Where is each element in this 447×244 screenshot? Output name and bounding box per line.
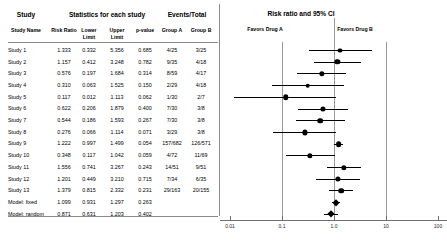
- cell-study: Study 9: [8, 141, 26, 146]
- cell-lower: 0.997: [82, 141, 96, 146]
- cell-ga: 2/29: [167, 83, 178, 88]
- column-header-upper: Upper: [110, 28, 125, 33]
- cell-lower: 0.186: [82, 118, 96, 123]
- cell-study: Study 5: [8, 95, 26, 100]
- effect-marker: [321, 106, 326, 111]
- effect-marker: [341, 165, 346, 170]
- cell-ga: 4/25: [167, 48, 178, 53]
- cell-rr: 0.348: [57, 153, 71, 158]
- cell-study: Study 1: [8, 48, 26, 53]
- column-header-rr: Risk Ratio: [51, 28, 76, 33]
- gridline-0.1: [282, 42, 283, 220]
- cell-p: 0.059: [138, 153, 152, 158]
- cell-gb: 3/8: [197, 106, 205, 111]
- cell-upper: 3.248: [110, 60, 124, 65]
- x-tick-1: [282, 216, 283, 220]
- cell-gb: 4/18: [196, 60, 207, 65]
- cell-rr: 1.201: [57, 177, 71, 182]
- cell-ga: 7/30: [167, 118, 178, 123]
- cell-gb: 4/17: [196, 71, 207, 76]
- cell-gb: 3/25: [196, 48, 207, 53]
- cell-rr: 1.556: [57, 165, 71, 170]
- x-tick-label-1: 0.1: [279, 223, 286, 229]
- cell-lower: 0.815: [82, 188, 96, 193]
- cell-rr: 0.544: [57, 118, 71, 123]
- cell-lower: 0.412: [82, 60, 96, 65]
- column-header-p: p-value: [136, 28, 154, 33]
- effect-marker: [336, 177, 341, 182]
- column-header-ga: Group A: [162, 28, 183, 33]
- cell-p: 0.314: [138, 71, 152, 76]
- x-tick-2: [334, 216, 335, 220]
- cell-rr: 0.576: [57, 71, 71, 76]
- cell-rr: 1.099: [57, 200, 71, 205]
- cell-ga: 7/34: [167, 177, 178, 182]
- effect-marker: [317, 118, 323, 124]
- cell-study: Study 3: [8, 71, 26, 76]
- header-rule: [8, 42, 218, 43]
- cell-study: Study 6: [8, 106, 26, 111]
- cell-lower: 0.931: [82, 200, 96, 205]
- cell-upper: 3.210: [110, 177, 124, 182]
- cell-ga: 8/59: [167, 71, 178, 76]
- cell-study: Study 2: [8, 60, 26, 65]
- cell-upper: 1.525: [110, 83, 124, 88]
- cell-p: 0.685: [138, 48, 152, 53]
- effect-marker: [319, 71, 324, 76]
- cell-gb: 2/7: [197, 95, 205, 100]
- favors-left-label: Favors Drug A: [247, 27, 283, 32]
- cell-ga: 3/29: [167, 130, 178, 135]
- x-tick-label-0: 0.01: [225, 223, 235, 229]
- cell-gb: 6/35: [196, 177, 207, 182]
- cell-lower: 0.066: [82, 130, 96, 135]
- cell-study: Study 12: [8, 177, 29, 182]
- cell-ga: 9/35: [167, 60, 178, 65]
- effect-marker: [302, 130, 307, 135]
- cell-p: 0.150: [138, 83, 152, 88]
- cell-lower: 0.063: [82, 83, 96, 88]
- cell-rr: 1.333: [57, 48, 71, 53]
- cell-upper: 1.114: [110, 130, 123, 135]
- cell-gb: 126/571: [191, 141, 211, 146]
- cell-p: 0.054: [138, 141, 152, 146]
- cell-upper: 2.332: [110, 188, 124, 193]
- cell-study: Study 4: [8, 83, 26, 88]
- cell-lower: 0.206: [82, 106, 96, 111]
- column-header-lower-line2: Limit: [83, 35, 95, 40]
- cell-lower: 0.449: [82, 177, 96, 182]
- cell-upper: 3.267: [110, 165, 124, 170]
- cell-rr: 0.117: [57, 95, 70, 100]
- cell-lower: 0.197: [82, 71, 96, 76]
- cell-p: 0.263: [138, 200, 152, 205]
- cell-p: 0.715: [138, 177, 152, 182]
- effect-marker: [305, 83, 310, 88]
- cell-p: 0.062: [138, 95, 152, 100]
- cell-gb: 3/8: [197, 130, 205, 135]
- cell-ga: 7/30: [167, 106, 178, 111]
- cell-gb: 3/8: [197, 118, 205, 123]
- cell-p: 0.400: [138, 106, 152, 111]
- cell-gb: 9/51: [196, 165, 207, 170]
- effect-marker: [283, 95, 288, 100]
- cell-p: 0.267: [138, 118, 152, 123]
- cell-p: 0.782: [138, 60, 152, 65]
- effect-marker: [308, 153, 313, 158]
- forest-plot-figure: StudyStatistics for each studyEvents/Tot…: [0, 0, 447, 244]
- column-header-lower: Lower: [81, 28, 96, 33]
- gridline-10: [386, 42, 387, 220]
- column-header-gb: Group B: [191, 28, 212, 33]
- plot-panel: Risk ratio and 95% CI Favors Drug A Favo…: [220, 0, 447, 244]
- summary-diamond: [332, 199, 339, 206]
- cell-p: 0.231: [138, 188, 152, 193]
- favors-right-label: Favors Drug B: [337, 27, 373, 32]
- cell-upper: 1.879: [110, 106, 124, 111]
- cell-rr: 1.222: [57, 141, 71, 146]
- cell-lower: 0.741: [82, 165, 96, 170]
- cell-rr: 0.276: [57, 130, 71, 135]
- cell-study: Model: fixed: [8, 200, 37, 205]
- cell-rr: 1.157: [57, 60, 71, 65]
- null-reference-line: [334, 18, 335, 220]
- cell-p: 0.071: [138, 130, 152, 135]
- cell-rr: 0.622: [57, 106, 71, 111]
- cell-p: 0.243: [138, 165, 152, 170]
